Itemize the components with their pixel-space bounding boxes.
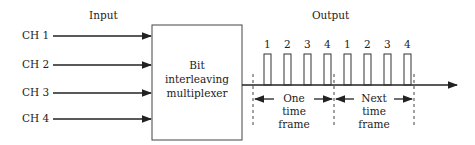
multiplexer-line2: interleaving xyxy=(152,72,242,86)
multiplexer-line1: Bit xyxy=(152,58,242,72)
channel-label-4: CH 4 xyxy=(22,112,49,124)
pulse-label: 2 xyxy=(284,38,291,50)
channel-label-1: CH 1 xyxy=(22,29,49,41)
pulse-train xyxy=(264,54,411,85)
pulse-label: 4 xyxy=(404,38,411,50)
multiplexer-line3: multiplexer xyxy=(152,86,242,100)
pulse-label: 1 xyxy=(264,38,271,50)
pulse-label: 1 xyxy=(344,38,351,50)
frame-1-label: One time frame xyxy=(274,92,314,131)
pulse-label: 3 xyxy=(384,38,391,50)
output-label: Output xyxy=(312,9,349,21)
channel-label-2: CH 2 xyxy=(22,58,49,70)
channel-label-3: CH 3 xyxy=(22,86,49,98)
pulse-label: 4 xyxy=(324,38,331,50)
pulse-label: 3 xyxy=(304,38,311,50)
multiplexer-label: Bit interleaving multiplexer xyxy=(152,58,242,100)
frame-2-label: Next time frame xyxy=(354,92,394,131)
pulse-label: 2 xyxy=(364,38,371,50)
input-label: Input xyxy=(89,9,118,21)
